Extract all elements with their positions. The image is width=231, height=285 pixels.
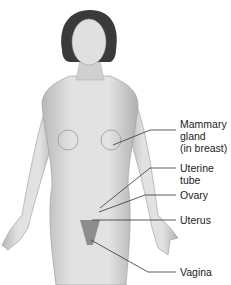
label-uterus: Uterus (180, 214, 211, 226)
label-ovary: Ovary (180, 189, 208, 201)
label-uterine-tube: Uterine tube (180, 162, 214, 186)
label-vagina: Vagina (180, 266, 212, 278)
face (72, 19, 106, 65)
torso (42, 76, 138, 285)
label-mammary-gland: Mammary gland (in breast) (180, 118, 227, 154)
